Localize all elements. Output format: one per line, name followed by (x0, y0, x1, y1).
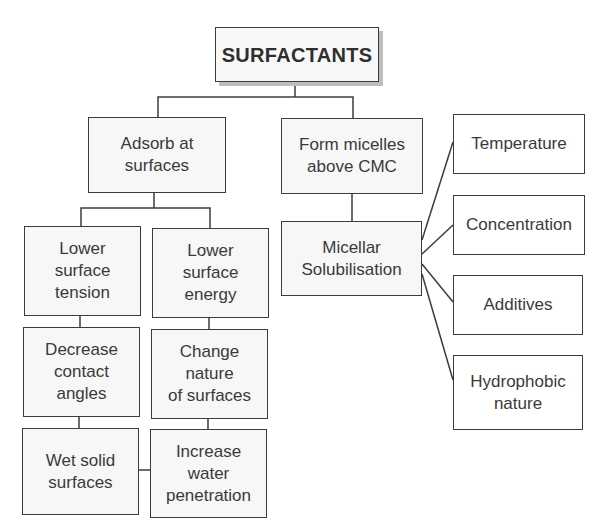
connector-adsorb-children (81, 208, 210, 228)
node-hydrophobic-nature: Hydrophobic nature (453, 355, 583, 430)
node-change-nature-of-surfaces: Change nature of surfaces (151, 329, 268, 419)
node-surfactants: SURFACTANTS (215, 27, 379, 82)
node-lower-surface-tension: Lower surface tension (24, 226, 141, 316)
connector-root-adsorb (158, 97, 353, 118)
connector-sol-concentration (422, 225, 453, 254)
node-micellar-solubilisation: Micellar Solubilisation (281, 221, 422, 296)
connector-sol-temperature (422, 142, 453, 240)
node-temperature: Temperature (453, 114, 585, 174)
node-wet-solid-surfaces: Wet solid surfaces (22, 428, 139, 515)
node-concentration: Concentration (453, 195, 585, 255)
node-additives: Additives (453, 275, 583, 335)
surfactants-diagram: SURFACTANTS Adsorb at surfaces Form mice… (0, 0, 593, 523)
connector-sol-hydrophobic (422, 274, 453, 380)
node-increase-water-penetration: Increase water penetration (150, 429, 267, 518)
node-decrease-contact-angles: Decrease contact angles (23, 327, 140, 417)
node-lower-surface-energy: Lower surface energy (152, 228, 269, 318)
node-form-micelles: Form micelles above CMC (281, 118, 423, 194)
node-adsorb-at-surfaces: Adsorb at surfaces (88, 117, 226, 193)
connector-sol-additives (422, 264, 453, 302)
